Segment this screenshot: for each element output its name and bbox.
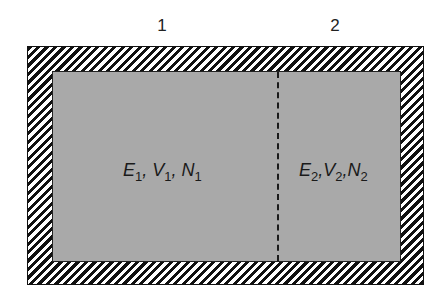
energy-symbol-1: E <box>123 160 135 180</box>
particles-sub-1: 1 <box>195 169 202 184</box>
volume-sub-1: 1 <box>164 169 171 184</box>
particles-symbol-1: N <box>182 160 195 180</box>
volume-symbol-2: V <box>323 160 335 180</box>
particles-sub-2: 2 <box>361 169 368 184</box>
container-interior: E1, V1, N1 E2,V2,N2 <box>52 71 401 262</box>
volume-symbol-1: V <box>152 160 164 180</box>
region-label-2: 2 <box>325 16 345 36</box>
region-label-1: 1 <box>152 16 172 36</box>
energy-symbol-2: E <box>299 160 311 180</box>
volume-sub-2: 2 <box>335 169 342 184</box>
sep: , <box>172 160 177 180</box>
partition-dashed-line <box>277 72 279 261</box>
particles-symbol-2: N <box>348 160 361 180</box>
subsystem-1-state: E1, V1, N1 <box>123 160 202 184</box>
sep: , <box>142 160 147 180</box>
container-wall: E1, V1, N1 E2,V2,N2 <box>27 46 424 285</box>
subsystem-2-state: E2,V2,N2 <box>299 160 368 184</box>
